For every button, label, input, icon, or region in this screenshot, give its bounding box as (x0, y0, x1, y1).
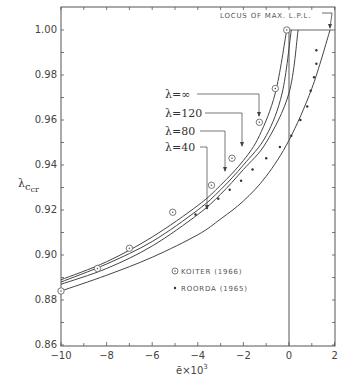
legend-koiter: KOITER (1966) (181, 268, 242, 276)
roorda-point (194, 213, 196, 215)
svg-text:0.88: 0.88 (35, 294, 57, 305)
svg-text:0.96: 0.96 (35, 114, 57, 125)
svg-text:0.98: 0.98 (35, 69, 57, 80)
axis-ticks: −10−8−6−4−2020.860.880.900.920.940.960.9… (35, 7, 338, 361)
svg-text:0.94: 0.94 (35, 159, 57, 170)
svg-text:0: 0 (286, 350, 292, 361)
plot-frame (61, 7, 335, 346)
svg-text:0.92: 0.92 (35, 204, 57, 215)
roorda-point (279, 146, 281, 148)
roorda-point (251, 168, 253, 170)
svg-text:0.86: 0.86 (35, 339, 57, 350)
roorda-point (240, 180, 242, 182)
roorda-point (217, 198, 219, 200)
svg-text:−10: −10 (50, 350, 71, 361)
svg-text:−8: −8 (99, 350, 114, 361)
label-lambda-120: λ=120 (165, 107, 202, 120)
svg-text:−6: −6 (145, 350, 160, 361)
label-lambda-40: λ=40 (165, 141, 195, 154)
roorda-point (315, 49, 317, 51)
label-lambda-inf: λ=∞ (165, 88, 190, 101)
x-axis-label: ē×103 (176, 363, 208, 376)
roorda-point (229, 189, 231, 191)
svg-text:2: 2 (331, 350, 337, 361)
legend: KOITER (1966) ROORDA (1965) (172, 268, 248, 293)
curves (61, 30, 330, 291)
roorda-point (315, 63, 317, 65)
svg-text:−2: −2 (236, 350, 251, 361)
curve-λ=80 (61, 30, 298, 284)
roorda-point (265, 157, 267, 159)
roorda-point (306, 105, 308, 107)
roorda-marker-icon (174, 287, 176, 289)
roorda-point (309, 90, 311, 92)
roorda-point (299, 119, 301, 121)
legend-roorda: ROORDA (1965) (181, 285, 248, 293)
svg-text:0.90: 0.90 (35, 249, 57, 260)
locus-annotation: LOCUS OF MAX. L.P.L. (220, 12, 311, 20)
markers (58, 27, 318, 294)
label-lambda-80: λ=80 (165, 125, 195, 138)
roorda-point (313, 76, 315, 78)
svg-text:1.00: 1.00 (35, 24, 57, 35)
y-axis-label: λccr (18, 177, 39, 194)
locus-arrow-icon (322, 13, 332, 29)
svg-text:−4: −4 (190, 350, 205, 361)
curve-λ=40 (61, 30, 330, 291)
chart: −10−8−6−4−2020.860.880.900.920.940.960.9… (0, 0, 342, 378)
roorda-point (290, 135, 292, 137)
